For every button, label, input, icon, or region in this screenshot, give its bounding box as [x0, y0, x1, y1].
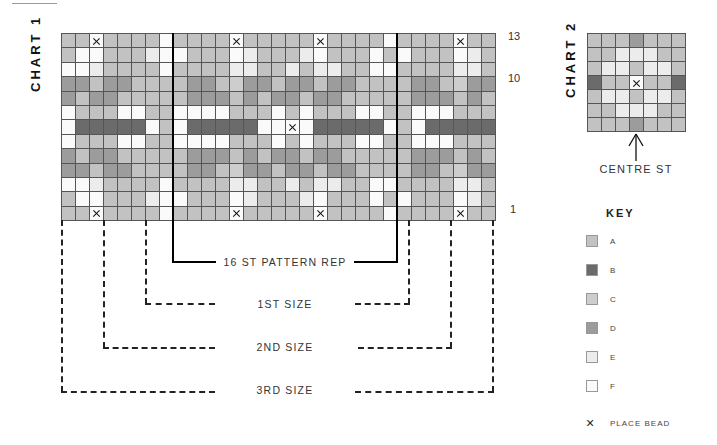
grid-cell: [588, 34, 602, 48]
grid-cell: [440, 164, 454, 178]
grid-cell: [328, 135, 342, 149]
grid-cell: [370, 192, 384, 206]
key-item-place-bead: × PLACE BEAD: [586, 418, 670, 428]
grid-cell: [174, 106, 188, 120]
grid-cell: [62, 63, 76, 77]
grid-cell: [658, 76, 672, 90]
grid-cell: [244, 34, 258, 48]
grid-cell: [356, 34, 370, 48]
grid-cell: [482, 164, 496, 178]
swatch-icon: [586, 235, 598, 247]
grid-cell: [62, 48, 76, 62]
grid-cell: [426, 192, 440, 206]
grid-cell: [104, 120, 118, 134]
grid-cell: [90, 48, 104, 62]
grid-cell: [146, 207, 160, 221]
grid-cell: [440, 207, 454, 221]
grid-cell: [356, 77, 370, 91]
grid-cell: [342, 164, 356, 178]
grid-cell: [104, 92, 118, 106]
grid-cell: [258, 106, 272, 120]
grid-cell: [104, 34, 118, 48]
grid-cell: [314, 120, 328, 134]
grid-cell: [314, 92, 328, 106]
grid-cell: [216, 63, 230, 77]
grid-cell: [174, 34, 188, 48]
repeat-bracket-right: [354, 261, 398, 263]
grid-cell: [658, 48, 672, 62]
grid-cell: [272, 34, 286, 48]
grid-cell: [328, 48, 342, 62]
grid-cell: [314, 192, 328, 206]
grid-cell: [90, 164, 104, 178]
size1-left-base: [145, 303, 215, 305]
swatch-icon: [586, 380, 598, 392]
grid-cell: [328, 77, 342, 91]
grid-cell: [300, 92, 314, 106]
grid-cell: [132, 149, 146, 163]
bead-cell: [314, 207, 328, 221]
grid-cell: [118, 34, 132, 48]
grid-cell: [314, 63, 328, 77]
key-label: E: [610, 353, 616, 362]
grid-cell: [104, 207, 118, 221]
grid-cell: [602, 34, 616, 48]
grid-cell: [132, 178, 146, 192]
grid-cell: [398, 135, 412, 149]
grid-cell: [630, 90, 644, 104]
grid-cell: [398, 149, 412, 163]
grid-cell: [244, 106, 258, 120]
grid-cell: [454, 77, 468, 91]
grid-cell: [440, 192, 454, 206]
grid-cell: [672, 76, 686, 90]
grid-cell: [188, 149, 202, 163]
grid-cell: [286, 48, 300, 62]
grid-cell: [356, 106, 370, 120]
grid-cell: [658, 90, 672, 104]
grid-cell: [230, 192, 244, 206]
grid-cell: [412, 77, 426, 91]
grid-cell: [342, 135, 356, 149]
grid-cell: [328, 120, 342, 134]
grid-cell: [468, 106, 482, 120]
grid-cell: [482, 207, 496, 221]
grid-cell: [482, 48, 496, 62]
grid-cell: [616, 90, 630, 104]
size1-right-base: [355, 303, 410, 305]
grid-cell: [104, 106, 118, 120]
grid-cell: [62, 135, 76, 149]
grid-cell: [76, 77, 90, 91]
grid-cell: [286, 164, 300, 178]
key-item-b: B: [586, 264, 616, 276]
chart2-grid: [587, 33, 686, 132]
grid-cell: [630, 62, 644, 76]
grid-cell: [440, 178, 454, 192]
grid-cell: [202, 92, 216, 106]
grid-cell: [398, 48, 412, 62]
grid-cell: [62, 178, 76, 192]
grid-cell: [132, 34, 146, 48]
grid-cell: [118, 135, 132, 149]
grid-cell: [188, 48, 202, 62]
grid-cell: [314, 135, 328, 149]
grid-cell: [440, 120, 454, 134]
grid-cell: [454, 106, 468, 120]
grid-cell: [454, 192, 468, 206]
grid-cell: [658, 62, 672, 76]
grid-cell: [104, 178, 118, 192]
grid-cell: [76, 164, 90, 178]
grid-cell: [62, 207, 76, 221]
bead-x-icon: ×: [586, 418, 598, 428]
grid-cell: [286, 178, 300, 192]
grid-cell: [468, 164, 482, 178]
grid-cell: [412, 120, 426, 134]
grid-cell: [132, 135, 146, 149]
grid-cell: [90, 77, 104, 91]
grid-cell: [188, 207, 202, 221]
grid-cell: [468, 149, 482, 163]
grid-cell: [426, 120, 440, 134]
grid-cell: [300, 149, 314, 163]
row-number-10: 10: [508, 72, 520, 84]
grid-cell: [426, 48, 440, 62]
grid-cell: [118, 120, 132, 134]
